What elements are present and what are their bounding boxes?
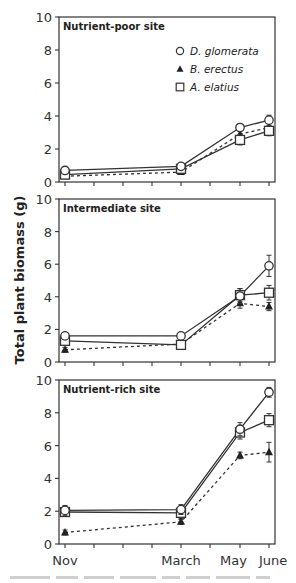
circle-marker-icon [61, 332, 69, 340]
y-tick-label: 8 [44, 43, 52, 58]
panel-2: 0246810Intermediate site [35, 192, 275, 370]
legend: D. glomerataB. erectusA. elatius [176, 45, 259, 93]
triangle-marker-icon [265, 302, 273, 310]
legend-triangle-icon [177, 65, 184, 72]
series-line-dglomerata [65, 392, 269, 510]
square-marker-icon [265, 126, 274, 135]
square-marker-icon [265, 416, 274, 425]
square-marker-icon [177, 340, 186, 349]
y-axis-label: Total plant biomass (g) [12, 196, 27, 365]
circle-marker-icon [61, 506, 69, 514]
y-tick-label: 6 [44, 439, 52, 454]
y-tick-label: 6 [44, 76, 52, 91]
legend-label: A. elatius [189, 81, 240, 93]
y-tick-label: 2 [44, 322, 52, 337]
y-tick-label: 10 [35, 192, 52, 207]
y-tick-label: 10 [35, 373, 52, 388]
biomass-line-chart: 0246810Nutrient-poor site0246810Intermed… [0, 0, 296, 583]
circle-marker-icon [177, 505, 185, 513]
legend-square-icon [176, 83, 184, 91]
circle-marker-icon [61, 166, 69, 174]
circle-marker-icon [177, 162, 185, 170]
plot-frame [59, 380, 275, 544]
circle-marker-icon [236, 123, 244, 131]
panel-title: Nutrient-rich site [63, 384, 161, 395]
y-tick-label: 4 [44, 471, 52, 486]
y-tick-label: 0 [44, 175, 52, 190]
y-tick-label: 2 [44, 504, 52, 519]
x-tick-label-march: March [161, 553, 201, 568]
figure-caption-cropped [10, 576, 290, 583]
square-marker-icon [236, 135, 245, 144]
series-line-dglomerata [65, 266, 269, 336]
plot-frame [59, 17, 275, 182]
y-tick-label: 10 [35, 10, 52, 25]
y-tick-label: 8 [44, 406, 52, 421]
y-tick-label: 0 [44, 537, 52, 552]
plot-frame [59, 199, 275, 362]
series-line-berectus [65, 452, 269, 532]
circle-marker-icon [236, 292, 244, 300]
legend-circle-icon [176, 47, 183, 54]
legend-label: B. erectus [190, 63, 244, 75]
triangle-marker-icon [265, 448, 273, 456]
y-tick-label: 4 [44, 109, 52, 124]
circle-marker-icon [265, 388, 273, 396]
y-tick-label: 6 [44, 257, 52, 272]
legend-label: D. glomerata [190, 45, 259, 57]
y-tick-label: 8 [44, 225, 52, 240]
circle-marker-icon [236, 425, 244, 433]
y-tick-label: 4 [44, 290, 52, 305]
triangle-marker-icon [236, 451, 244, 459]
x-tick-label-june: June [258, 553, 287, 568]
panel-1: 0246810Nutrient-poor site [35, 10, 275, 190]
series-line-berectus [65, 303, 269, 349]
panel-title: Nutrient-poor site [63, 21, 165, 32]
circle-marker-icon [265, 116, 273, 124]
circle-marker-icon [265, 262, 273, 270]
x-tick-label-nov: Nov [52, 553, 78, 568]
panel-title: Intermediate site [63, 203, 161, 214]
y-tick-label: 2 [44, 142, 52, 157]
panel-3: 0246810Nutrient-rich site [35, 373, 275, 552]
x-tick-label-may: May [220, 553, 247, 568]
square-marker-icon [265, 288, 274, 297]
circle-marker-icon [177, 332, 185, 340]
y-tick-label: 0 [44, 355, 52, 370]
